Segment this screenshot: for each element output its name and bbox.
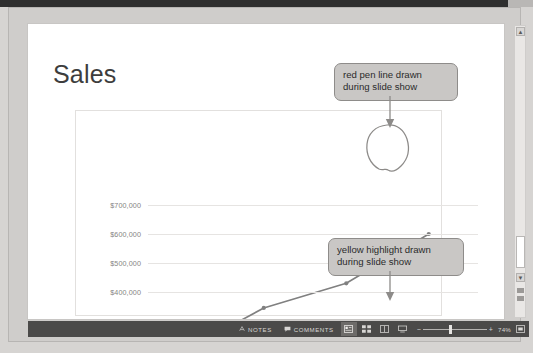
chart-y-axis-label: $500,000 <box>110 259 141 268</box>
window-top-band-right <box>508 0 533 7</box>
zoom-in-button[interactable]: + <box>489 326 493 333</box>
chart-y-axis-label: $300,000 <box>110 317 141 320</box>
comments-button[interactable]: COMMENTS <box>278 321 340 337</box>
slide[interactable]: Sales $100,000$200,000$300,000$400,000$5… <box>31 27 501 319</box>
zoom-out-button[interactable]: − <box>417 326 421 333</box>
fit-slide-icon[interactable] <box>516 325 525 333</box>
chart-data-point <box>262 306 266 310</box>
window-top-band <box>0 0 533 7</box>
zoom-percentage: 74% <box>498 326 511 333</box>
chart-gridline <box>148 205 478 206</box>
notes-label: NOTES <box>248 326 272 333</box>
view-button-normal[interactable] <box>341 322 357 336</box>
scroll-previous-slide-button[interactable] <box>517 288 524 293</box>
pen-circle-annotation <box>361 123 413 175</box>
notes-icon <box>239 326 245 332</box>
view-button-slide-show[interactable] <box>395 322 411 336</box>
red-pen-callout-line2: during slide show <box>343 81 449 93</box>
chart-data-point <box>344 281 348 285</box>
yellow-highlight-callout-line1: yellow highlight drawn <box>337 244 455 256</box>
view-button-reading[interactable] <box>377 322 393 336</box>
chart-y-axis-label: $400,000 <box>110 288 141 297</box>
yellow-highlight-callout-line2: during slide show <box>337 256 455 268</box>
page-title: Sales <box>53 60 117 89</box>
chart-gridline <box>148 234 478 235</box>
view-button-slide-sorter[interactable] <box>359 322 375 336</box>
scroll-down-arrow-icon[interactable]: ▼ <box>516 273 525 282</box>
scroll-next-slide-button[interactable] <box>517 296 524 301</box>
scroll-up-arrow-icon[interactable]: ▲ <box>516 27 525 36</box>
vertical-scrollbar[interactable]: ▲ ▼ <box>514 25 526 318</box>
chart-gridline <box>148 292 478 293</box>
scrollbar-thumb[interactable] <box>516 236 525 268</box>
notes-button[interactable]: NOTES <box>233 321 278 337</box>
zoom-slider-thumb[interactable] <box>449 325 452 334</box>
comment-icon <box>284 326 291 332</box>
yellow-highlight-callout-arrow <box>383 271 397 302</box>
zoom-slider-track[interactable] <box>423 329 487 330</box>
red-pen-callout-line1: red pen line drawn <box>343 69 449 81</box>
chart-y-axis-label: $700,000 <box>110 201 141 210</box>
red-pen-callout-arrow <box>383 96 397 129</box>
zoom-slider[interactable]: − + <box>417 326 493 333</box>
comments-label: COMMENTS <box>294 326 334 333</box>
application-frame: Sales $100,000$200,000$300,000$400,000$5… <box>8 7 521 342</box>
chart-y-axis-label: $600,000 <box>110 230 141 239</box>
status-bar: NOTES COMMENTS <box>28 321 529 337</box>
